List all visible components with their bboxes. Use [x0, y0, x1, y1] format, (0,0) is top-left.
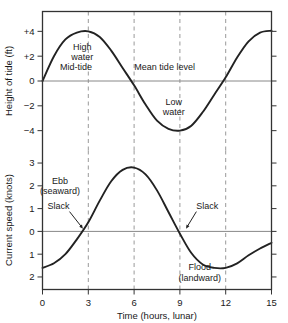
- ytick-label-1: 2: [29, 180, 34, 191]
- y-axis-title: Current speed (knots): [3, 174, 14, 266]
- ytick-label-0: +4: [24, 26, 35, 37]
- ytick-label-4: 1: [29, 249, 34, 260]
- annotation-label-0-1: water: [70, 52, 93, 62]
- ytick-label-2: 1: [29, 203, 34, 214]
- annotation-label-1-0: Mid-tide: [60, 62, 92, 72]
- annotation-label-3-1: water: [162, 107, 185, 117]
- annotation-label-2-0: Slack: [196, 201, 219, 211]
- annotation-label-2-0: Mean tide level: [134, 62, 195, 72]
- ytick-label-1: +2: [24, 51, 35, 62]
- annotation-label-0-1: (seaward): [40, 186, 80, 196]
- annotation-label-3-0: Low: [166, 97, 183, 107]
- y-axis-title: Height of tide (ft): [3, 46, 14, 116]
- xtick-label-5: 15: [266, 297, 277, 308]
- figure-background: [0, 0, 288, 323]
- ytick-label-5: 2: [29, 271, 34, 282]
- annotation-label-3-1: (landward): [178, 273, 221, 283]
- ytick-label-3: 0: [29, 226, 34, 237]
- annotation-label-1-0: Slack: [48, 201, 71, 211]
- tide-and-current-figure: +4+20−2−4Height of tide (ft)HighwaterMid…: [0, 0, 288, 323]
- annotation-label-0-0: High: [73, 42, 92, 52]
- ytick-label-3: −2: [24, 100, 35, 111]
- annotation-label-0-0: Ebb: [52, 176, 68, 186]
- ytick-label-4: −4: [24, 125, 35, 136]
- xtick-label-2: 6: [131, 297, 136, 308]
- ytick-label-2: 0: [29, 75, 34, 86]
- xtick-label-0: 0: [40, 297, 45, 308]
- xtick-label-4: 12: [220, 297, 231, 308]
- xtick-label-3: 9: [177, 297, 182, 308]
- ytick-label-0: 3: [29, 157, 34, 168]
- x-axis-title: Time (hours, lunar): [117, 310, 197, 321]
- xtick-label-1: 3: [86, 297, 91, 308]
- annotation-label-3-0: Flood: [188, 262, 211, 272]
